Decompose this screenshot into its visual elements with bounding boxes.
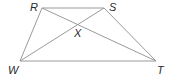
side-st (104, 8, 156, 61)
vertex-label-r: R (30, 1, 38, 13)
trapezoid-diagram: R S X W T (0, 0, 173, 77)
vertex-label-w: W (8, 64, 20, 76)
diagonal-sw (20, 8, 104, 61)
side-wr (20, 8, 42, 61)
vertex-label-t: T (157, 64, 165, 76)
intersection-label-x: X (73, 27, 82, 39)
diagonal-rt (42, 8, 156, 61)
vertex-label-s: S (109, 1, 117, 13)
